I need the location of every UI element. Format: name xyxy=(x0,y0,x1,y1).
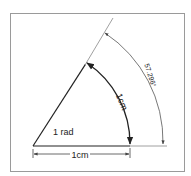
radius-label: 1cm xyxy=(71,150,88,160)
angled-ray-extension xyxy=(85,18,113,64)
radian-diagram: 1cm 1 rad 1cm 57.296° xyxy=(0,0,191,176)
angle-label: 1 rad xyxy=(53,127,74,137)
arc-degrees xyxy=(105,33,163,144)
arc-length-label: 1cm xyxy=(114,92,130,112)
